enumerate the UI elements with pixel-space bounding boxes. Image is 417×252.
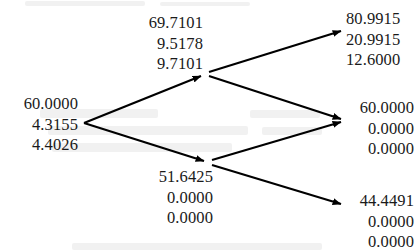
node-down-option-value: 0.0000 xyxy=(159,188,213,209)
edge-down-updown xyxy=(212,122,341,160)
node-up-down: 60.0000 0.0000 0.0000 xyxy=(346,98,414,160)
node-up-down-asset-price: 60.0000 xyxy=(346,98,414,119)
node-up-up-intrinsic-value: 12.6000 xyxy=(346,50,400,71)
node-up-down-option-value: 0.0000 xyxy=(346,119,414,140)
node-root-option-value: 4.3155 xyxy=(24,115,78,136)
node-up-intrinsic-value: 9.7101 xyxy=(149,54,203,75)
node-down-down-option-value: 0.0000 xyxy=(346,212,414,233)
node-down-down-intrinsic-value: 0.0000 xyxy=(346,232,414,252)
binomial-tree-figure: 60.0000 4.3155 4.4026 69.7101 9.5178 9.7… xyxy=(0,0,417,252)
node-up-asset-price: 69.7101 xyxy=(149,13,203,34)
edge-root-down xyxy=(84,123,204,161)
node-root-intrinsic-value: 4.4026 xyxy=(24,135,78,156)
node-down-down: 44.4491 0.0000 0.0000 xyxy=(346,191,414,252)
node-up-option-value: 9.5178 xyxy=(149,34,203,55)
node-down-intrinsic-value: 0.0000 xyxy=(159,208,213,229)
edge-down-downdown xyxy=(212,165,341,204)
node-root-asset-price: 60.0000 xyxy=(24,94,78,115)
node-down: 51.6425 0.0000 0.0000 xyxy=(159,167,213,229)
node-up: 69.7101 9.5178 9.7101 xyxy=(149,13,203,75)
node-up-up-asset-price: 80.9915 xyxy=(346,9,400,30)
edge-root-up xyxy=(84,76,201,123)
node-up-up-option-value: 20.9915 xyxy=(346,30,400,51)
node-root: 60.0000 4.3155 4.4026 xyxy=(24,94,78,156)
node-up-down-intrinsic-value: 0.0000 xyxy=(346,139,414,160)
node-down-down-asset-price: 44.4491 xyxy=(346,191,414,212)
edge-up-upup xyxy=(209,31,341,72)
node-up-up: 80.9915 20.9915 12.6000 xyxy=(346,9,400,71)
edge-up-updown xyxy=(209,76,341,119)
node-down-asset-price: 51.6425 xyxy=(159,167,213,188)
